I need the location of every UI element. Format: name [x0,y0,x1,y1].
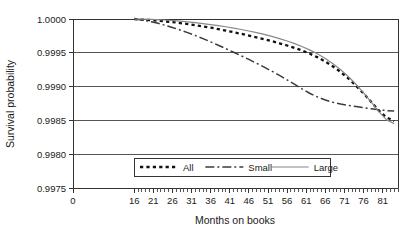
legend-label-small: Small [248,162,272,173]
x-tick-label: 26 [167,195,178,206]
x-tick-label: 76 [358,195,369,206]
x-tick-label: 51 [263,195,274,206]
x-tick-label: 31 [186,195,197,206]
x-tick-label: 41 [224,195,235,206]
legend-label-all: All [183,162,194,173]
x-tick-label: 21 [148,195,159,206]
x-tick-label: 0 [70,195,75,206]
y-axis-tick-labels: 0.99750.99800.99850.99900.99951.0000 [37,14,66,194]
y-tick-label: 0.9975 [37,183,66,194]
x-tick-label: 81 [377,195,388,206]
survival-probability-chart: 0.99750.99800.99850.99900.99951.0000 016… [0,0,417,232]
y-tick-label: 0.9990 [37,81,66,92]
x-axis-tick-labels: 01621263136414651566166717681 [70,195,388,206]
x-tick-label: 16 [129,195,140,206]
y-tick-label: 1.0000 [37,14,66,25]
x-tick-label: 71 [339,195,350,206]
x-tick-label: 56 [282,195,293,206]
y-tick-label: 0.9995 [37,47,66,58]
x-tick-label: 36 [205,195,216,206]
chart-canvas: 0.99750.99800.99850.99900.99951.0000 016… [0,0,417,232]
legend-label-large: Large [314,162,338,173]
chart-legend: AllSmallLarge [134,158,338,176]
y-tick-label: 0.9980 [37,149,66,160]
y-axis-title: Survival probability [4,59,16,148]
x-tick-label: 46 [244,195,255,206]
y-axis-ticks [69,19,73,188]
x-axis-ticks [73,188,383,193]
y-tick-label: 0.9985 [37,115,66,126]
x-tick-label: 61 [301,195,312,206]
x-axis-title: Months on books [195,214,275,226]
x-tick-label: 66 [320,195,331,206]
x-axis-minor-ticks [134,188,398,192]
